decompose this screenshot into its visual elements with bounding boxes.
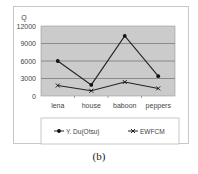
y-axis-label: Q <box>21 14 27 22</box>
x-tick-label: lena <box>51 102 64 109</box>
y-tick-label: 9000 <box>20 40 36 47</box>
x-axis-ticks: lenahousebaboonpeppers <box>51 96 171 110</box>
diamond-marker-icon <box>89 83 93 87</box>
x-tick-label: house <box>82 102 101 109</box>
y-tick-label: 12000 <box>17 23 37 30</box>
y-tick-label: 6000 <box>20 58 36 65</box>
line-chart: 030006000900012000 Q lenahousebaboonpepp… <box>0 0 198 174</box>
y-tick-label: 0 <box>32 93 36 100</box>
x-tick-label: peppers <box>146 102 172 110</box>
diamond-marker-icon <box>57 129 61 133</box>
legend-label: EWFCM <box>140 128 165 135</box>
figure-caption: (b) <box>0 150 198 162</box>
diamond-marker-icon <box>56 59 60 63</box>
y-axis-ticks: 030006000900012000 <box>17 23 37 100</box>
x-tick-label: baboon <box>113 102 136 109</box>
y-tick-label: 3000 <box>20 75 36 82</box>
legend-label: Y. Du(Otsu) <box>66 128 99 136</box>
diamond-marker-icon <box>123 34 127 38</box>
diamond-marker-icon <box>156 74 160 78</box>
